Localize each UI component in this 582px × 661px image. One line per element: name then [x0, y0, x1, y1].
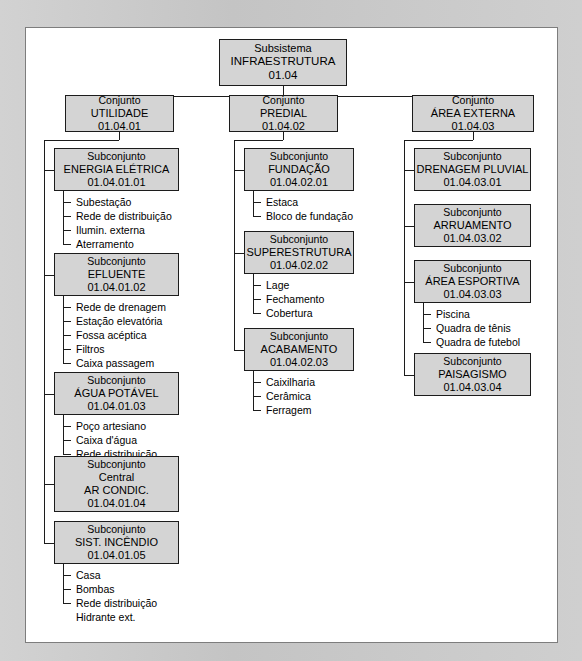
subconjunto-level-label: Subconjunto [87, 523, 145, 535]
leaf-list: Rede de drenagemEstação elevatóriaFossa … [63, 300, 166, 370]
leaf-item: Fechamento [253, 292, 324, 306]
leaf-item: Rede de drenagem [63, 300, 166, 314]
subconjunto-name: ÁGUA POTÁVEL [74, 387, 158, 400]
subconjunto-node-0-2: SubconjuntoÁGUA POTÁVEL01.04.01.03 [54, 372, 179, 415]
spine-elbow-1 [234, 140, 283, 141]
conjunto-name: UTILIDADE [91, 107, 148, 120]
subconjunto-name: PAISAGISMO [438, 368, 506, 381]
leaf-item: Caixilharia [253, 375, 315, 389]
subconjunto-code: 01.04.01.01 [87, 176, 145, 189]
spine-stub-0-2 [44, 394, 54, 395]
subconjunto-code: 01.04.01.03 [87, 400, 145, 413]
subconjunto-node-0-3: SubconjuntoCentralAR CONDIC.01.04.01.04 [54, 456, 179, 512]
leaf-item: Estaca [253, 195, 353, 209]
subconjunto-code: 01.04.03.02 [443, 232, 501, 245]
subconjunto-node-1-0: SubconjuntoFUNDAÇÃO01.04.02.01 [244, 148, 354, 191]
leaf-item: Ilumin. externa [63, 223, 172, 237]
leaf-item: Bombas [63, 582, 157, 596]
subconjunto-name: ACABAMENTO [261, 343, 338, 356]
subconjunto-node-0-1: SubconjuntoEFLUENTE01.04.01.02 [54, 253, 179, 296]
subconjunto-level-label: Subconjunto [443, 206, 501, 218]
leaf-item: Caixa d'água [63, 433, 157, 447]
diagram-canvas: SubsistemaINFRAESTRUTURA01.04ConjuntoUTI… [26, 28, 558, 643]
subconjunto-code: 01.04.01.02 [87, 281, 145, 294]
leaf-list: CaixilhariaCerâmicaFerragem [253, 375, 315, 417]
conjunto-stem-2 [473, 132, 474, 140]
spine-stub-1-2 [234, 350, 244, 351]
leaf-list: EstacaBloco de fundação [253, 195, 353, 223]
spine-stub-2-2 [404, 282, 414, 283]
leaf-item: Estação elevatória [63, 314, 166, 328]
conjunto-node-2: ConjuntoÁREA EXTERNA01.04.03 [412, 95, 534, 132]
leaf-item: Quadra de futebol [423, 335, 520, 349]
root-code: 01.04 [269, 69, 298, 83]
spine-stub-0-3 [44, 484, 54, 485]
leaf-item: Rede distribuição [63, 596, 157, 610]
leaf-item: Casa [63, 568, 157, 582]
subconjunto-spine-0 [44, 140, 45, 543]
subconjunto-name: SIST. INCÊNDIO [75, 536, 158, 549]
leaf-item: Quadra de tênis [423, 321, 520, 335]
subconjunto-name: DRENAGEM PLUVIAL [417, 163, 529, 176]
subconjunto-code: 01.04.01.05 [87, 549, 145, 562]
spine-stub-1-0 [234, 170, 244, 171]
spine-stub-1-1 [234, 253, 244, 254]
subconjunto-level-label: Subconjunto [87, 255, 145, 267]
subconjunto-name-2: AR CONDIC. [84, 484, 149, 497]
subconjunto-name: ÁREA ESPORTIVA [425, 275, 519, 288]
subconjunto-node-0-0: SubconjuntoENERGIA ELÉTRICA01.04.01.01 [54, 148, 179, 191]
conjunto-level-label: Conjunto [452, 94, 494, 106]
leaf-item: Poço artesiano [63, 419, 157, 433]
spine-stub-0-4 [44, 543, 54, 544]
subconjunto-code: 01.04.02.03 [270, 356, 328, 369]
subconjunto-level-label: Subconjunto [443, 355, 501, 367]
conjunto-stem-0 [119, 132, 120, 140]
root-name: INFRAESTRUTURA [231, 55, 336, 69]
leaf-item: Fossa acéptica [63, 328, 166, 342]
leaf-item: Aterramento [63, 237, 172, 251]
conjunto-node-0: ConjuntoUTILIDADE01.04.01 [65, 95, 174, 132]
diagram-panel: SubsistemaINFRAESTRUTURA01.04ConjuntoUTI… [25, 27, 558, 643]
subconjunto-node-1-2: SubconjuntoACABAMENTO01.04.02.03 [244, 328, 354, 371]
subconjunto-name: ENERGIA ELÉTRICA [64, 163, 170, 176]
conjunto-stem-1 [283, 132, 284, 140]
leaf-list: CasaBombasRede distribuiçãoHidrante ext. [63, 568, 157, 624]
subconjunto-name: FUNDAÇÃO [268, 163, 330, 176]
conjunto-name: ÁREA EXTERNA [431, 107, 515, 120]
subconjunto-node-0-4: SubconjuntoSIST. INCÊNDIO01.04.01.05 [54, 521, 179, 564]
subconjunto-node-2-3: SubconjuntoPAISAGISMO01.04.03.04 [414, 353, 531, 396]
leaf-item: Rede de distribuição [63, 209, 172, 223]
conjunto-code: 01.04.02 [262, 120, 305, 133]
subconjunto-name: ARRUAMENTO [433, 219, 511, 232]
subconjunto-level-label: Subconjunto [87, 374, 145, 386]
leaf-item: Lage [253, 278, 324, 292]
conjunto-node-1: ConjuntoPREDIAL01.04.02 [229, 95, 338, 132]
outer-frame: SubsistemaINFRAESTRUTURA01.04ConjuntoUTI… [0, 0, 582, 661]
conjunto-name: PREDIAL [260, 107, 307, 120]
subconjunto-node-1-1: SubconjuntoSUPERESTRUTURA01.04.02.02 [244, 231, 354, 274]
leaf-item: Piscina [423, 307, 520, 321]
leaf-list: SubestaçãoRede de distribuiçãoIlumin. ex… [63, 195, 172, 251]
subconjunto-name: Central [99, 471, 134, 484]
subconjunto-code: 01.04.03.01 [443, 176, 501, 189]
subconjunto-level-label: Subconjunto [270, 233, 328, 245]
spine-stub-2-3 [404, 375, 414, 376]
subconjunto-node-2-0: SubconjuntoDRENAGEM PLUVIAL01.04.03.01 [414, 148, 531, 191]
conjunto-level-label: Conjunto [262, 94, 304, 106]
spine-stub-2-1 [404, 226, 414, 227]
leaf-item: Hidrante ext. [63, 610, 157, 624]
leaf-list: LageFechamentoCobertura [253, 278, 324, 320]
leaf-item: Filtros [63, 342, 166, 356]
conjunto-level-label: Conjunto [98, 94, 140, 106]
leaf-item: Subestação [63, 195, 172, 209]
subconjunto-code: 01.04.03.03 [443, 288, 501, 301]
leaf-item: Caixa passagem [63, 356, 166, 370]
subconjunto-level-label: Subconjunto [270, 150, 328, 162]
subconjunto-level-label: Subconjunto [87, 458, 145, 470]
subconjunto-spine-1 [234, 140, 235, 350]
leaf-item: Cobertura [253, 306, 324, 320]
subconjunto-spine-2 [404, 140, 405, 375]
leaf-list: Poço artesianoCaixa d'águaRede distribui… [63, 419, 157, 461]
root-level-label: Subsistema [254, 42, 311, 55]
conjunto-code: 01.04.01 [98, 120, 141, 133]
